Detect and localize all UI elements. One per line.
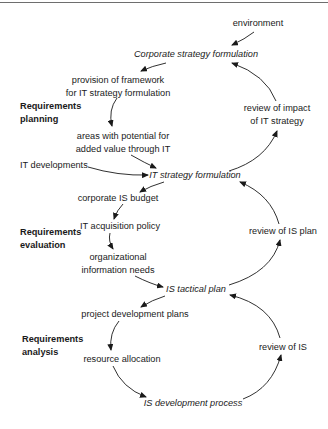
phase-requirements-planning: Requirements planning — [20, 100, 81, 125]
arrow-projectplans-to-resource — [111, 321, 119, 350]
arrow-istactical-to-projectplans — [141, 296, 165, 307]
phase-label-line: Requirements — [20, 226, 81, 239]
arrow-reviewis-to-istactical — [230, 295, 280, 338]
arrow-istactical-to-reviewisplan — [229, 240, 280, 285]
phase-label-line: analysis — [22, 346, 83, 359]
arrow-areas-to-itstrategy — [131, 155, 156, 168]
arrow-budget-to-acquisition — [114, 204, 123, 219]
review-is-plan: review of IS plan — [249, 225, 317, 238]
phase-label-line: Requirements — [22, 333, 83, 346]
process-is-development: IS development process — [144, 397, 243, 410]
input-it-developments: IT developments — [20, 159, 88, 172]
phase-label-line: evaluation — [20, 239, 81, 252]
arrow-acquisition-to-orgneeds — [109, 233, 113, 249]
arrow-orgneeds-to-istactical — [135, 276, 163, 287]
step-line: information needs — [81, 264, 154, 277]
step-line: added value through IT — [76, 143, 171, 156]
review-impact-it-strategy: review of impact of IT strategy — [244, 102, 310, 127]
step-line: areas with potential for — [76, 130, 171, 143]
review-is: review of IS — [259, 341, 307, 354]
arrow-itstrategy-to-budget — [140, 182, 164, 192]
phase-label-line: Requirements — [20, 100, 81, 113]
arrow-reviewimpact-to-corporate — [232, 63, 276, 101]
step-provision-framework: provision of framework for IT strategy f… — [66, 74, 171, 99]
step-corporate-is-budget: corporate IS budget — [78, 192, 159, 205]
step-line: provision of framework — [66, 74, 171, 87]
review-line: of IT strategy — [244, 115, 310, 128]
process-is-tactical-plan: IS tactical plan — [166, 283, 226, 296]
step-project-development-plans: project development plans — [81, 308, 188, 321]
arrow-resource-to-isdev — [113, 366, 146, 397]
phase-label-line: planning — [20, 113, 81, 126]
phase-requirements-analysis: Requirements analysis — [22, 333, 83, 358]
process-corporate-strategy: Corporate strategy formulation — [134, 48, 258, 61]
step-line: for IT strategy formulation — [66, 87, 171, 100]
arrow-provision-to-areas — [111, 98, 117, 126]
arrow-corporate-to-provision — [141, 63, 166, 71]
arrow-itdev-to-itstrategy — [88, 167, 148, 175]
arrow-environment-to-corporate — [232, 32, 254, 45]
review-line: review of impact — [244, 102, 310, 115]
step-areas-added-value: areas with potential for added value thr… — [76, 130, 171, 155]
arrow-isdev-to-reviewis — [243, 355, 281, 399]
step-resource-allocation: resource allocation — [83, 353, 160, 366]
step-it-acquisition-policy: IT acquisition policy — [80, 220, 160, 233]
phase-requirements-evaluation: Requirements evaluation — [20, 226, 81, 251]
step-line: organizational — [81, 251, 154, 264]
arrows-layer — [0, 0, 328, 429]
process-it-strategy: IT strategy formulation — [149, 169, 240, 182]
arrow-reviewisplan-to-itstrategy — [240, 182, 279, 224]
arrow-itstrategy-to-reviewimpact — [229, 131, 277, 171]
input-environment: environment — [233, 17, 284, 30]
step-organizational-information-needs: organizational information needs — [81, 251, 154, 276]
